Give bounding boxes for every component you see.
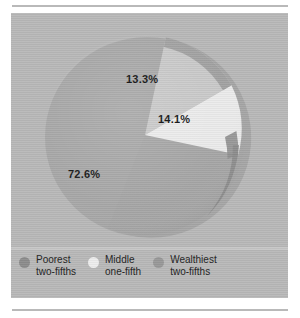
legend-item-middle[interactable]: Middle one-fifth — [88, 254, 141, 278]
pie-plot-area: 13.3% 14.1% 72.6% — [11, 13, 288, 245]
legend-swatch-icon-poorest — [19, 257, 30, 268]
legend-label-middle: Middle one-fifth — [105, 254, 141, 278]
legend-label-poorest-line2: two-fifths — [36, 266, 76, 278]
legend-label-poorest-line1: Poorest — [36, 254, 70, 265]
slice-label-poorest: 72.6% — [68, 168, 100, 180]
legend-separator — [11, 247, 288, 250]
chart-legend: Poorest two-fifths Middle one-fifth Weal… — [11, 254, 288, 298]
legend-label-wealthiest-line2: two-fifths — [170, 266, 217, 278]
slice-label-middle: 13.3% — [126, 73, 158, 85]
legend-label-poorest: Poorest two-fifths — [36, 254, 76, 278]
chart-panel: 13.3% 14.1% 72.6% Poorest two-fifths Mid… — [11, 13, 288, 298]
legend-swatch-icon-wealthiest — [153, 257, 164, 268]
legend-label-wealthiest-line1: Wealthiest — [170, 254, 217, 265]
pie-gloss-overlay — [45, 35, 245, 235]
legend-label-middle-line1: Middle — [105, 254, 134, 265]
bottom-rule — [12, 309, 288, 311]
legend-item-poorest[interactable]: Poorest two-fifths — [19, 254, 76, 278]
legend-label-middle-line2: one-fifth — [105, 266, 141, 278]
slice-label-wealthiest: 14.1% — [158, 113, 190, 125]
top-rule — [12, 5, 288, 7]
legend-label-wealthiest: Wealthiest two-fifths — [170, 254, 217, 278]
figure: 13.3% 14.1% 72.6% Poorest two-fifths Mid… — [0, 0, 300, 318]
legend-item-wealthiest[interactable]: Wealthiest two-fifths — [153, 254, 217, 278]
legend-swatch-icon-middle — [88, 257, 99, 268]
pie-chart-svg — [11, 13, 288, 245]
